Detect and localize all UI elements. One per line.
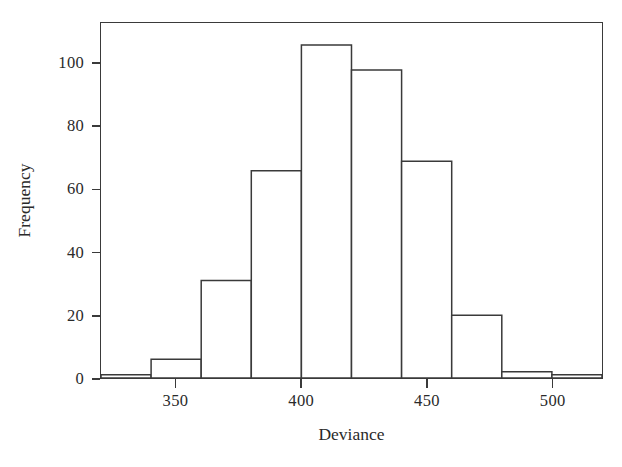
y-tick-label: 80 bbox=[67, 116, 84, 136]
x-tick-label: 500 bbox=[540, 391, 566, 411]
histogram-bars bbox=[101, 23, 602, 378]
histogram-bar bbox=[201, 281, 251, 378]
histogram-bar bbox=[502, 372, 552, 378]
x-axis-title: Deviance bbox=[100, 424, 603, 445]
histogram-bar bbox=[301, 45, 351, 378]
y-tick-label: 20 bbox=[67, 306, 84, 326]
x-tick-label: 350 bbox=[163, 391, 189, 411]
histogram-figure: 020406080100 350400450500 Frequency Devi… bbox=[0, 0, 622, 467]
y-axis-title: Frequency bbox=[13, 22, 35, 379]
y-tick-mark bbox=[92, 315, 100, 317]
histogram-bar bbox=[101, 375, 151, 378]
x-tick-mark bbox=[552, 379, 554, 388]
y-tick-mark bbox=[92, 378, 100, 380]
y-tick-mark bbox=[92, 125, 100, 127]
x-tick-mark bbox=[426, 379, 428, 388]
y-tick-label: 60 bbox=[67, 179, 84, 199]
y-tick-mark bbox=[92, 252, 100, 254]
x-tick-label: 450 bbox=[414, 391, 440, 411]
x-tick-mark bbox=[175, 379, 177, 388]
histogram-bar bbox=[251, 171, 301, 378]
y-tick-label: 100 bbox=[58, 53, 84, 73]
y-tick-label: 0 bbox=[75, 369, 84, 389]
histogram-bar bbox=[552, 375, 602, 378]
y-tick-mark bbox=[92, 189, 100, 191]
y-tick-mark bbox=[92, 62, 100, 64]
y-tick-label: 40 bbox=[67, 243, 84, 263]
plot-area bbox=[100, 22, 603, 379]
histogram-bar bbox=[402, 161, 452, 378]
x-tick-mark bbox=[300, 379, 302, 388]
histogram-bar bbox=[452, 315, 502, 378]
x-tick-label: 400 bbox=[288, 391, 314, 411]
histogram-bar bbox=[151, 359, 201, 378]
histogram-bar bbox=[352, 70, 402, 378]
